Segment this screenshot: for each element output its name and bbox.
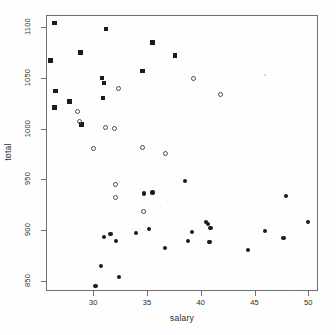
y-tick-label: 950 — [23, 167, 32, 191]
y-tick-label: 850 — [23, 268, 32, 292]
data-point — [116, 86, 121, 91]
data-point — [100, 76, 105, 81]
scan-smudge — [264, 74, 266, 76]
plot-panel — [46, 15, 318, 291]
data-point — [207, 240, 211, 244]
data-point — [142, 191, 146, 195]
y-tick — [41, 179, 46, 180]
y-tick — [41, 78, 46, 79]
x-tick — [308, 291, 309, 296]
data-point — [52, 105, 57, 110]
data-point — [284, 194, 288, 198]
x-tick-label: 35 — [139, 298, 155, 307]
x-axis-title: salary — [162, 313, 202, 323]
data-point — [93, 284, 97, 288]
x-tick — [147, 291, 148, 296]
y-tick-label: 1050 — [23, 65, 32, 89]
scatter-plot-figure: 3035404550 850900950100010501100 salary … — [0, 0, 336, 335]
y-tick-label: 1000 — [23, 116, 32, 140]
data-point — [173, 53, 178, 58]
data-point — [117, 275, 121, 279]
data-point — [104, 27, 109, 32]
x-tick-label: 50 — [300, 298, 316, 307]
y-tick-label: 900 — [23, 218, 32, 242]
data-point — [48, 58, 53, 63]
data-point — [78, 50, 83, 55]
data-point — [150, 40, 155, 45]
y-tick-label: 1100 — [23, 15, 32, 39]
data-point — [140, 69, 145, 74]
data-point — [150, 190, 154, 194]
data-point — [53, 89, 58, 94]
x-tick — [201, 291, 202, 296]
y-tick — [41, 230, 46, 231]
x-tick — [255, 291, 256, 296]
data-point — [103, 125, 108, 130]
y-tick — [41, 281, 46, 282]
data-point — [52, 21, 57, 26]
data-point — [101, 96, 106, 101]
data-point — [67, 99, 72, 104]
x-tick-label: 40 — [193, 298, 209, 307]
x-tick — [93, 291, 94, 296]
data-point — [75, 109, 80, 114]
x-tick-label: 45 — [247, 298, 263, 307]
data-point — [108, 232, 112, 236]
data-point — [77, 119, 82, 124]
data-point — [102, 81, 107, 86]
data-point — [281, 236, 285, 240]
y-tick — [41, 129, 46, 130]
y-axis-title: total — [3, 132, 13, 172]
data-point — [99, 264, 103, 268]
y-tick — [41, 27, 46, 28]
x-tick-label: 30 — [85, 298, 101, 307]
data-point — [218, 92, 223, 97]
data-point — [208, 226, 212, 230]
data-point — [163, 151, 168, 156]
